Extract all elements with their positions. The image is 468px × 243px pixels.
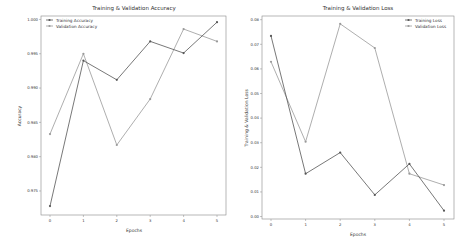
y-tick-label: 0.995 bbox=[27, 51, 38, 56]
legend-validation-accuracy: Validation Accuracy bbox=[56, 24, 98, 29]
legend-training-loss: Training Loss bbox=[414, 18, 442, 23]
y-tick-label: 0.980 bbox=[27, 154, 38, 159]
x-tick-label: 3 bbox=[374, 222, 377, 227]
data-point-marker bbox=[374, 47, 376, 49]
data-point-marker bbox=[339, 23, 341, 25]
data-point-marker bbox=[305, 173, 307, 175]
data-point-marker bbox=[116, 144, 118, 146]
data-point-marker bbox=[339, 151, 341, 153]
x-tick-label: 5 bbox=[216, 218, 219, 223]
y-tick-label: 0.990 bbox=[27, 85, 38, 90]
data-point-marker bbox=[49, 133, 51, 135]
y-tick-label: 0.01 bbox=[251, 189, 260, 194]
accuracy-plot-area bbox=[41, 16, 226, 215]
accuracy-y-label: Accuracy bbox=[17, 105, 22, 126]
loss-y-label: Training & Validation Loss bbox=[244, 89, 249, 148]
data-point-marker bbox=[305, 141, 307, 143]
data-point-marker bbox=[183, 52, 185, 54]
y-tick-label: 0.985 bbox=[27, 120, 38, 125]
data-point-marker bbox=[408, 163, 410, 165]
x-tick-label: 3 bbox=[149, 218, 152, 223]
training-marker-icon bbox=[407, 19, 409, 21]
accuracy-x-axis: 012345 bbox=[49, 215, 219, 223]
figure: Training & Validation Accuracy 0.9750.98… bbox=[0, 0, 468, 243]
data-point-marker bbox=[270, 61, 272, 63]
accuracy-x-label: Epochs bbox=[126, 228, 143, 233]
accuracy-chart: Training & Validation Accuracy 0.9750.98… bbox=[17, 5, 226, 233]
y-tick-label: 0.975 bbox=[27, 188, 38, 193]
data-point-marker bbox=[149, 98, 151, 100]
loss-chart: Training & Validation Loss 0.000.010.020… bbox=[244, 5, 454, 237]
validation-marker-icon bbox=[48, 25, 50, 27]
data-point-marker bbox=[216, 21, 218, 23]
x-tick-label: 2 bbox=[116, 218, 119, 223]
x-tick-label: 2 bbox=[339, 222, 342, 227]
y-tick-label: 0.07 bbox=[251, 42, 260, 47]
x-tick-label: 0 bbox=[270, 222, 273, 227]
x-tick-label: 1 bbox=[82, 218, 85, 223]
data-point-marker bbox=[374, 194, 376, 196]
data-point-marker bbox=[443, 210, 445, 212]
x-tick-label: 0 bbox=[49, 218, 52, 223]
chart-canvas: Training & Validation Accuracy 0.9750.98… bbox=[0, 0, 468, 243]
data-point-marker bbox=[216, 40, 218, 42]
validation-marker-icon bbox=[407, 25, 409, 27]
loss-y-axis: 0.000.010.020.030.040.050.060.070.08 bbox=[251, 17, 262, 219]
data-point-marker bbox=[408, 173, 410, 175]
y-tick-label: 0.05 bbox=[251, 91, 260, 96]
data-point-marker bbox=[116, 79, 118, 81]
legend-validation-loss: Validation Loss bbox=[415, 24, 446, 29]
x-tick-label: 1 bbox=[304, 222, 307, 227]
y-tick-label: 0.03 bbox=[251, 140, 260, 145]
x-tick-label: 4 bbox=[408, 222, 411, 227]
loss-x-label: Epochs bbox=[350, 232, 367, 237]
accuracy-y-axis: 0.9750.9800.9850.9900.9951.000 bbox=[27, 17, 41, 194]
y-tick-label: 0.00 bbox=[251, 214, 260, 219]
y-tick-label: 0.02 bbox=[251, 165, 260, 170]
legend-training-accuracy: Training Accuracy bbox=[55, 18, 93, 23]
y-tick-label: 0.06 bbox=[251, 66, 260, 71]
loss-chart-title: Training & Validation Loss bbox=[322, 5, 394, 12]
y-tick-label: 0.08 bbox=[251, 17, 260, 22]
training-marker-icon bbox=[48, 19, 50, 21]
data-point-marker bbox=[183, 28, 185, 30]
y-tick-label: 1.000 bbox=[27, 17, 38, 22]
accuracy-chart-title: Training & Validation Accuracy bbox=[91, 5, 176, 12]
x-tick-label: 5 bbox=[443, 222, 446, 227]
x-tick-label: 4 bbox=[182, 218, 185, 223]
loss-x-axis: 012345 bbox=[270, 219, 446, 227]
data-point-marker bbox=[443, 184, 445, 186]
y-tick-label: 0.04 bbox=[251, 115, 260, 120]
data-point-marker bbox=[270, 35, 272, 37]
data-point-marker bbox=[149, 40, 151, 42]
loss-plot-area bbox=[262, 16, 454, 219]
data-point-marker bbox=[49, 205, 51, 207]
data-point-marker bbox=[82, 60, 84, 62]
data-point-marker bbox=[82, 53, 84, 55]
